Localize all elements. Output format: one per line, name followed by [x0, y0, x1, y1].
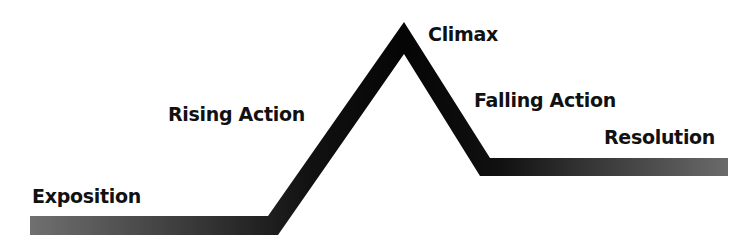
- label-resolution: Resolution: [604, 126, 715, 148]
- label-climax: Climax: [428, 23, 498, 45]
- plot-diagram: Exposition Rising Action Climax Falling …: [0, 0, 754, 246]
- label-falling-action: Falling Action: [474, 89, 616, 111]
- label-rising-action: Rising Action: [168, 103, 305, 125]
- plot-arc-line: [0, 0, 754, 246]
- label-exposition: Exposition: [32, 185, 141, 207]
